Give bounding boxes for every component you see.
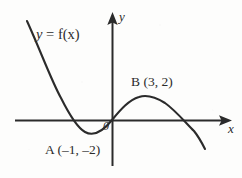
x-axis-label: x <box>228 122 234 135</box>
graph-figure: y = f(x) B (3, 2) A (–1, –2) 0 x y <box>0 0 242 178</box>
point-b-label: B (3, 2) <box>131 75 173 89</box>
function-label: y = f(x) <box>36 27 80 42</box>
function-label-equals: = <box>42 26 57 42</box>
origin-label: 0 <box>103 120 109 132</box>
point-a-label: A (–1, –2) <box>45 143 100 157</box>
y-axis-label: y <box>119 10 125 23</box>
function-label-fx: f(x) <box>58 26 80 42</box>
